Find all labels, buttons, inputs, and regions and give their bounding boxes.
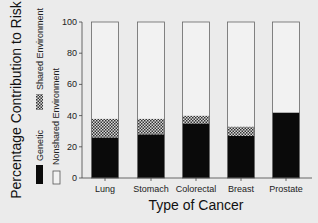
bar-segment-nonshared-prostate	[273, 22, 300, 112]
bar-segment-genetic-lung	[92, 137, 119, 178]
bar-segment-shared-colorectal	[183, 116, 210, 124]
bar-segment-shared-lung	[92, 119, 119, 138]
bar-segment-genetic-stomach	[138, 134, 165, 178]
x-tick-label: Prostate	[269, 184, 303, 194]
bar-segment-genetic-prostate	[273, 112, 300, 178]
stacked-bar-chart: LungStomachColorectalBreastProstate02040…	[0, 0, 318, 223]
bar-segment-nonshared-lung	[92, 22, 119, 119]
bar-segment-nonshared-colorectal	[183, 22, 210, 116]
legend-label-genetic: Genetic	[35, 129, 45, 161]
y-tick-label: 40	[67, 111, 77, 121]
x-axis-title: Type of Cancer	[149, 197, 244, 213]
legend: Genetic Shared Environment Nonshared Env…	[35, 7, 61, 184]
bar-segment-genetic-colorectal	[183, 123, 210, 178]
legend-swatch-nonshared	[53, 171, 60, 184]
bar-segment-nonshared-breast	[228, 22, 255, 127]
legend-label-nonshared: Nonshared Environment	[51, 67, 61, 165]
legend-label-shared: Shared Environment	[35, 7, 45, 90]
x-tick-label: Breast	[228, 184, 255, 194]
y-axis-title: Percentage Contribution to Risk	[8, 0, 24, 199]
y-tick-label: 80	[67, 48, 77, 58]
bars-group	[92, 22, 300, 178]
x-tick-label: Stomach	[133, 184, 169, 194]
y-tick-label: 0	[72, 173, 77, 183]
y-tick-label: 100	[62, 17, 77, 27]
y-tick-label: 20	[67, 142, 77, 152]
y-tick-label: 60	[67, 79, 77, 89]
bar-segment-nonshared-stomach	[138, 22, 165, 119]
bar-segment-genetic-breast	[228, 136, 255, 178]
legend-swatch-shared	[36, 94, 43, 110]
bar-segment-shared-breast	[228, 127, 255, 136]
legend-swatch-genetic	[36, 165, 43, 184]
bar-segment-shared-stomach	[138, 119, 165, 135]
x-tick-label: Lung	[95, 184, 115, 194]
x-tick-label: Colorectal	[176, 184, 217, 194]
